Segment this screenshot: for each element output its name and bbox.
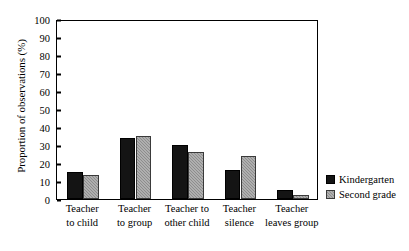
legend-item-label: Kindergarten: [339, 173, 394, 186]
y-tick-label: 30: [40, 140, 51, 153]
bar-group: [225, 21, 257, 199]
bar-group: [120, 21, 152, 199]
y-tick-label: 90: [40, 32, 51, 45]
bar: [83, 175, 99, 199]
y-tick-label: 70: [40, 68, 51, 81]
bar-group: [277, 21, 309, 199]
legend-item-label: Second grade: [339, 188, 396, 201]
y-tick-label: 10: [40, 176, 51, 189]
bar: [67, 172, 83, 199]
bar: [225, 170, 241, 199]
y-axis-title: Proportion of observations (%): [15, 16, 27, 196]
bar-group: [172, 21, 204, 199]
x-axis-label: Teacherleaves group: [256, 202, 328, 229]
y-tick-label: 80: [40, 50, 51, 63]
plot-area: 0102030405060708090100: [56, 20, 318, 200]
y-tick-label: 100: [34, 14, 50, 27]
bar: [277, 190, 293, 199]
y-tick-label: 50: [40, 104, 51, 117]
bars-layer: [57, 21, 317, 199]
bar-group: [67, 21, 99, 199]
x-axis-label-line: Teacher: [256, 202, 328, 216]
bar: [172, 145, 188, 199]
chart-legend: KindergartenSecond grade: [326, 172, 409, 202]
bar: [188, 152, 204, 199]
legend-item: Second grade: [326, 187, 409, 201]
y-tick-mark: [57, 200, 61, 201]
legend-item: Kindergarten: [326, 172, 409, 186]
x-axis-label-line: leaves group: [256, 216, 328, 230]
x-axis-labels: Teacherto childTeacherto groupTeacher to…: [56, 202, 318, 236]
y-tick-label: 60: [40, 86, 51, 99]
bar: [241, 156, 257, 199]
bar: [293, 195, 309, 199]
bar-chart: Proportion of observations (%) 010203040…: [0, 0, 409, 251]
bar: [120, 138, 136, 199]
legend-swatch-icon: [326, 190, 335, 199]
bar: [136, 136, 152, 199]
y-tick-label: 20: [40, 158, 51, 171]
y-tick-label: 40: [40, 122, 51, 135]
legend-swatch-icon: [326, 175, 335, 184]
